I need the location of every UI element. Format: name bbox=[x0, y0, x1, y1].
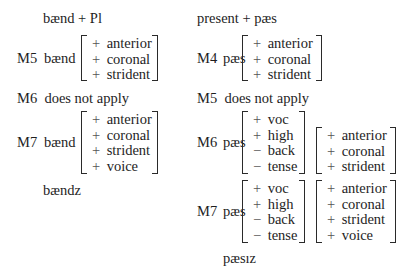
matrix-row: + strident bbox=[324, 212, 387, 228]
right-bracket bbox=[390, 180, 396, 243]
matrix-row: − tense bbox=[250, 159, 297, 175]
right-bracket bbox=[152, 35, 158, 81]
right-m7-label: M7 bbox=[197, 203, 217, 219]
left-bracket bbox=[242, 35, 248, 81]
right-bracket bbox=[299, 111, 305, 174]
left-input: bænd + Pl bbox=[43, 10, 102, 26]
left-m5-form: bænd bbox=[44, 50, 75, 66]
right-m5-text: M5 does not apply bbox=[197, 90, 309, 106]
left-m6-text: M6 does not apply bbox=[17, 90, 129, 106]
matrix-row: + anterior bbox=[89, 112, 152, 128]
left-bracket bbox=[242, 111, 248, 174]
right-m6-vowel-matrix: + voc + high − back − tense bbox=[242, 111, 305, 174]
matrix-row: − tense bbox=[250, 228, 297, 244]
left-m7-label: M7 bbox=[17, 134, 37, 150]
left-bracket bbox=[316, 127, 322, 174]
left-bracket bbox=[242, 180, 248, 243]
left-m5-matrix: + anterior + coronal + strident bbox=[81, 35, 158, 81]
left-m7-matrix: + anterior + coronal + strident + voice bbox=[81, 111, 158, 174]
matrix-row: + high bbox=[250, 128, 297, 144]
right-bracket bbox=[299, 180, 305, 243]
matrix-row: − back bbox=[250, 143, 297, 159]
left-bracket bbox=[81, 35, 87, 81]
left-output: bændz bbox=[43, 182, 81, 198]
matrix-row: + coronal bbox=[89, 52, 152, 68]
matrix-row: + coronal bbox=[89, 128, 152, 144]
left-m5-label: M5 bbox=[17, 50, 37, 66]
matrix-row: + strident bbox=[324, 159, 387, 175]
right-input: present + pæs bbox=[197, 10, 277, 26]
matrix-row: + anterior bbox=[324, 128, 387, 144]
right-bracket bbox=[390, 127, 396, 174]
matrix-row: + voc bbox=[250, 112, 297, 128]
right-bracket bbox=[316, 35, 322, 81]
matrix-row: + coronal bbox=[324, 197, 387, 213]
matrix-row: + strident bbox=[89, 67, 152, 83]
left-m7-form: bænd bbox=[44, 134, 75, 150]
right-m4-label: M4 bbox=[197, 50, 217, 66]
right-m6-label: M6 bbox=[197, 134, 217, 150]
matrix-row: + strident bbox=[250, 67, 313, 83]
matrix-row: − back bbox=[250, 212, 297, 228]
matrix-row: + voc bbox=[250, 181, 297, 197]
matrix-row: + high bbox=[250, 197, 297, 213]
right-m6-consonant-matrix: + anterior + coronal + strident bbox=[316, 127, 396, 174]
matrix-row: + strident bbox=[89, 143, 152, 159]
right-m4-matrix: + anterior + coronal + strident bbox=[242, 35, 322, 81]
matrix-row: + coronal bbox=[250, 52, 313, 68]
matrix-row: + anterior bbox=[250, 36, 313, 52]
matrix-row: + coronal bbox=[324, 144, 387, 160]
right-m7-consonant-matrix: + anterior + coronal + strident + voice bbox=[316, 180, 396, 243]
matrix-row: + voice bbox=[324, 228, 387, 244]
matrix-row: + anterior bbox=[89, 36, 152, 52]
left-bracket bbox=[81, 111, 87, 174]
right-m7-vowel-matrix: + voc + high − back − tense bbox=[242, 180, 305, 243]
right-output: pæsız bbox=[223, 250, 256, 266]
right-bracket bbox=[152, 111, 158, 174]
left-bracket bbox=[316, 180, 322, 243]
matrix-row: + voice bbox=[89, 159, 152, 175]
matrix-row: + anterior bbox=[324, 181, 387, 197]
